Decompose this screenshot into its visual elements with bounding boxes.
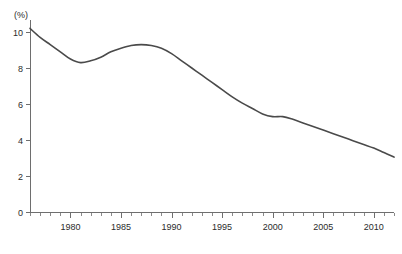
chart-background — [0, 0, 402, 254]
chart-canvas: 0246810 1980198519901995200020052010 (%) — [0, 0, 402, 254]
x-axis-tick-label: 1980 — [60, 222, 80, 232]
x-axis-tick-label: 1990 — [162, 222, 182, 232]
y-axis-tick-label: 8 — [18, 64, 23, 74]
y-axis-tick-label: 6 — [18, 100, 23, 110]
x-axis-tick-label: 2005 — [313, 222, 333, 232]
x-axis-tick-label: 1995 — [212, 222, 232, 232]
y-axis-tick-label: 0 — [18, 208, 23, 218]
x-axis-tick-label: 2000 — [263, 222, 283, 232]
y-axis-tick-label: 4 — [18, 136, 23, 146]
y-axis-tick-label: 2 — [18, 172, 23, 182]
x-axis-tick-label: 2010 — [364, 222, 384, 232]
line-chart: 0246810 1980198519901995200020052010 (%) — [0, 0, 402, 254]
y-axis-tick-label: 10 — [13, 28, 23, 38]
y-axis-unit-label: (%) — [14, 10, 28, 20]
x-axis-tick-label: 1985 — [111, 222, 131, 232]
